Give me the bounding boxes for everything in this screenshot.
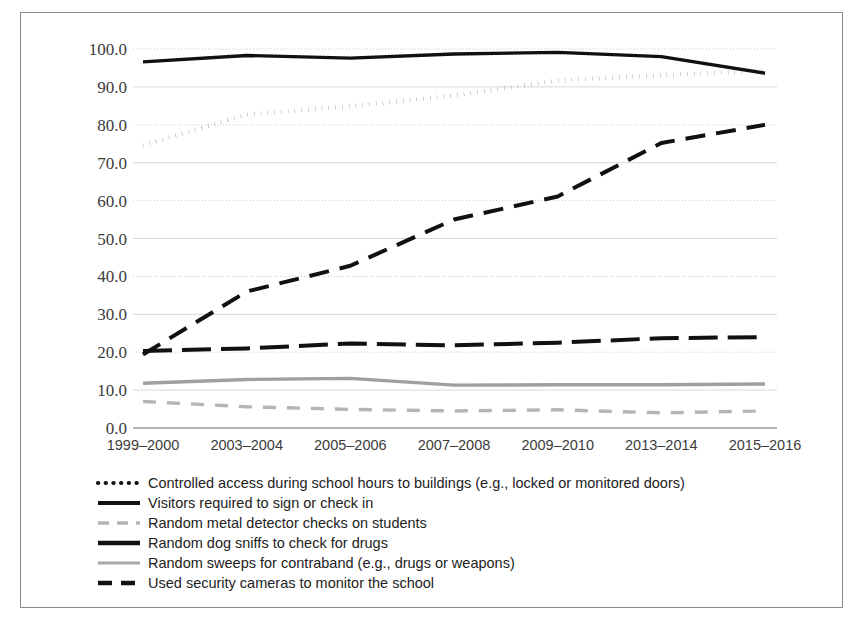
figure-frame [20,12,843,608]
